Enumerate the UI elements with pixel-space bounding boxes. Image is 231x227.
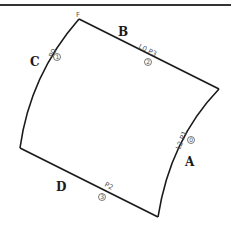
edge-label-a: A xyxy=(184,155,195,169)
marker-3-text: 3 xyxy=(100,193,104,200)
vertex-label-f: F xyxy=(76,11,80,19)
annotation-l2-p1-text: L2 P1 xyxy=(174,130,189,151)
annotation-l0-p3: L0 P3 2 xyxy=(137,43,158,66)
annotation-l2-p1: L2 P1 0 xyxy=(174,130,194,151)
patch-diagram: F C B A D P0 1 L0 P3 2 L2 P1 0 P2 3 xyxy=(0,0,231,227)
marker-2-text: 2 xyxy=(146,58,150,65)
edge-a xyxy=(158,89,219,217)
marker-1-text: 1 xyxy=(56,53,60,60)
marker-0-text: 0 xyxy=(189,136,193,143)
diagram-canvas: F C B A D P0 1 L0 P3 2 L2 P1 0 P2 3 xyxy=(0,0,231,227)
edge-d xyxy=(20,148,158,217)
annotation-p0: P0 1 xyxy=(48,48,61,61)
edge-label-b: B xyxy=(118,25,128,39)
edge-label-d: D xyxy=(56,180,66,194)
edge-label-c: C xyxy=(30,55,40,69)
annotation-l0-p3-text: L0 P3 xyxy=(137,43,158,59)
edge-c xyxy=(20,19,79,148)
